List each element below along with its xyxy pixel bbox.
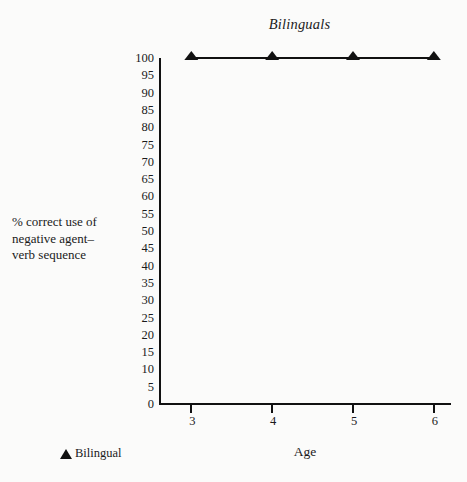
x-axis-tick-label: 4 (258, 415, 288, 428)
y-axis-tick-label: 45 (120, 242, 154, 255)
plot-area (159, 58, 450, 404)
y-axis-tick-label: 25 (120, 312, 154, 325)
x-axis-tick-label: 5 (339, 415, 369, 428)
chart-legend: Bilingual (60, 447, 122, 460)
y-axis-title-line-1: % correct use of (12, 214, 118, 231)
y-axis-tick-label: 60 (120, 190, 154, 203)
y-axis-tick-label: 40 (120, 260, 154, 273)
x-axis-tick-mark (190, 404, 192, 413)
y-axis-tick-label: 80 (120, 121, 154, 134)
y-axis-tick-label: 90 (120, 87, 154, 100)
x-axis-tick-label: 3 (177, 415, 207, 428)
y-axis-tick-label: 30 (120, 294, 154, 307)
y-axis-tick-label: 20 (120, 329, 154, 342)
y-axis-tick-label: 10 (120, 363, 154, 376)
y-axis-tick-label: 75 (120, 139, 154, 152)
y-axis-tick-label: 5 (120, 381, 154, 394)
x-axis-tick-mark (433, 404, 435, 413)
y-axis-title-line-3: verb sequence (12, 247, 118, 264)
chart-figure: Bilinguals % correct use of negative age… (0, 0, 467, 482)
chart-title: Bilinguals (0, 16, 467, 33)
y-axis-title: % correct use of negative agent– verb se… (12, 214, 118, 264)
y-axis-tick-label: 15 (120, 346, 154, 359)
y-axis-line (159, 58, 161, 405)
y-axis-tick-label: 70 (120, 156, 154, 169)
x-axis-tick-mark (271, 404, 273, 413)
y-axis-tick-label: 65 (120, 173, 154, 186)
y-axis-title-line-2: negative agent– (12, 231, 118, 248)
y-axis-tick-label: 0 (120, 398, 154, 411)
x-axis-title: Age (159, 444, 451, 460)
y-axis-tick-label: 95 (120, 69, 154, 82)
x-axis-tick-label: 6 (420, 415, 450, 428)
y-axis-tick-label: 100 (120, 52, 154, 65)
y-axis-tick-label: 50 (120, 225, 154, 238)
chart-title-text: Bilinguals (269, 16, 331, 33)
triangle-up-icon (60, 449, 72, 459)
y-axis-tick-label: 35 (120, 277, 154, 290)
legend-label-bilingual: Bilingual (75, 447, 122, 460)
y-axis-tick-label: 85 (120, 104, 154, 117)
y-axis-tick-label: 55 (120, 208, 154, 221)
y-axis-tick-labels: 1009590858075706560555045403530252015105… (116, 58, 154, 405)
x-axis-tick-mark (352, 404, 354, 413)
x-axis-tick-labels: 3456 (159, 404, 451, 444)
